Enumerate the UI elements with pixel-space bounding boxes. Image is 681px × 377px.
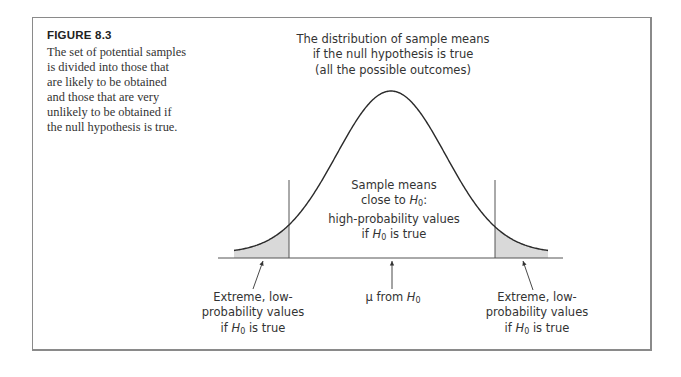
left-label-line-1: Extreme, low- — [202, 290, 304, 305]
text: if — [362, 227, 373, 241]
text: close to — [361, 193, 409, 207]
text: μ from — [365, 290, 406, 304]
right-tail-shaded-region — [495, 227, 548, 258]
h-variable: H — [409, 193, 418, 207]
left-tail-arrow — [253, 261, 263, 289]
center-label-line-3: high-probability values — [328, 212, 460, 227]
left-tail-shaded-region — [234, 225, 289, 258]
title-line-3: (all the possible outcomes) — [296, 63, 489, 78]
h-variable: H — [373, 227, 382, 241]
left-label-line-3: if H0 is true — [202, 321, 304, 339]
text: is true — [529, 321, 569, 335]
text: is true — [245, 321, 285, 335]
center-label-line-1: Sample means — [328, 178, 460, 193]
distribution-title: The distribution of sample means if the … — [296, 32, 489, 78]
left-tail-label: Extreme, low- probability values if H0 i… — [202, 290, 304, 339]
center-region-label: Sample means close to H0: high-probabili… — [328, 178, 460, 246]
mean-label-line: μ from H0 — [365, 290, 420, 308]
right-label-line-2: probability values — [486, 305, 588, 320]
right-tail-label: Extreme, low- probability values if H0 i… — [486, 290, 588, 339]
right-tail-arrow — [523, 261, 533, 290]
title-line-2: if the null hypothesis is true — [296, 47, 489, 62]
text: if — [221, 321, 232, 335]
title-line-1: The distribution of sample means — [296, 32, 489, 47]
text: if — [505, 321, 516, 335]
subscript: 0 — [415, 296, 420, 305]
mean-label: μ from H0 — [365, 290, 420, 308]
left-label-line-2: probability values — [202, 305, 304, 320]
h-variable: H — [407, 290, 416, 304]
right-label-line-1: Extreme, low- — [486, 290, 588, 305]
text: : — [423, 193, 427, 207]
right-label-line-3: if H0 is true — [486, 321, 588, 339]
text: is true — [386, 227, 426, 241]
center-label-line-2: close to H0: — [328, 193, 460, 211]
center-label-line-4: if H0 is true — [328, 227, 460, 245]
